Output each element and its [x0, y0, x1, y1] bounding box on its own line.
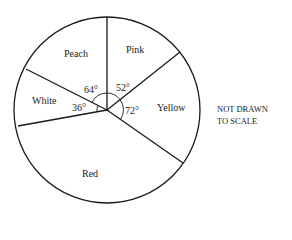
label-yellow: Yellow: [157, 102, 186, 113]
label-peach: Peach: [64, 48, 88, 59]
label-pink: Pink: [126, 44, 144, 55]
scale-note: NOT DRAWN TO SCALE: [217, 103, 268, 127]
arc-yellow: [120, 100, 124, 120]
label-white: White: [32, 95, 57, 106]
scale-note-line1: NOT DRAWN: [217, 103, 268, 115]
label-red: Red: [82, 168, 98, 179]
scale-note-line2: TO SCALE: [217, 115, 268, 127]
angle-label-yellow: 72°: [125, 105, 139, 116]
angle-label-pink: 52°: [116, 82, 130, 93]
arc-pink: [107, 93, 120, 100]
angle-label-peach: 64°: [84, 84, 98, 95]
arc-white: [97, 106, 98, 112]
divider-red-white: [18, 110, 107, 126]
angle-label-white: 36°: [72, 102, 86, 113]
divider-yellow-red: [107, 110, 183, 163]
